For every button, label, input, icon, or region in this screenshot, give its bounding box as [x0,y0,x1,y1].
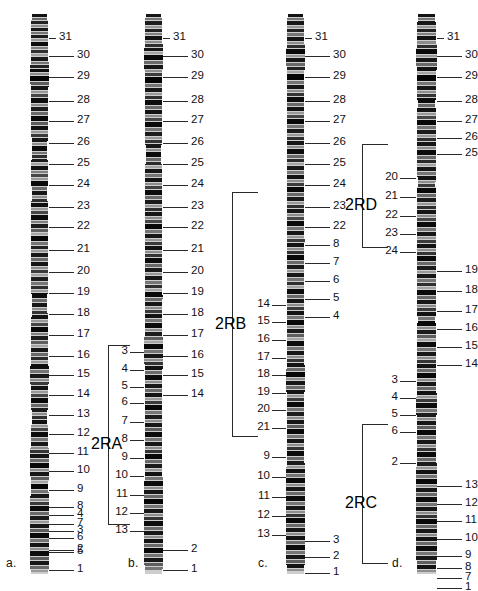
bracket-arm-top [362,424,388,425]
chromosome-band [144,337,163,340]
section-tick-line [437,365,462,366]
section-number-label: 5 [380,408,398,420]
section-tick-line [49,272,74,273]
chromosome-band [286,97,305,102]
chromosome-band [144,254,163,257]
section-tick-line [49,515,74,516]
chromosome-band [286,217,305,220]
section-tick-line [305,121,330,122]
chromosome-band [416,525,437,528]
section-number-label: 31 [173,31,186,43]
chromosome-band [286,466,305,468]
chromosome-band [416,63,437,66]
section-number-label: 14 [465,358,478,370]
chromosome-edge-mask [30,443,31,447]
chromosome-band [144,65,163,69]
bracket-arm-bottom [362,563,388,564]
chromosome-band [416,130,437,134]
chromosome-band [144,362,163,365]
chromosome-band [286,90,305,92]
section-number-label: 22 [333,220,346,232]
section-tick-line [437,138,462,139]
section-number-label: 3 [380,374,398,386]
chromosome-band [286,63,305,66]
chromosome-band [30,394,49,397]
chromosome-band [416,413,437,417]
chromosome-band [286,67,305,70]
chromosome-band [416,262,437,265]
chromosome-band [30,353,49,356]
section-tick-line [305,573,330,574]
panel-letter-a: a. [6,556,17,570]
chromosome-band [286,282,305,285]
chromosome-band [144,18,163,20]
chromosome-band [144,41,163,43]
chromosome-band [286,166,305,170]
inversion-label-2RB: 2RB [215,315,245,333]
chromosome-band [416,382,437,386]
chromosome-band [416,29,437,32]
chromosome-band [416,222,437,227]
section-number-label: 11 [465,514,477,526]
chromosome-band [144,29,163,32]
chromosome-band [30,47,49,49]
chromosome-band [416,373,437,378]
section-tick-line [163,143,188,144]
chromosome-band [144,323,163,328]
section-tick-line [437,539,462,540]
chromosome-edge-mask [48,361,49,365]
bracket-arm-top [108,345,130,346]
chromosome-band [144,73,163,76]
chromosome-band [416,287,437,289]
chromosome-band [416,312,437,316]
chromosome-band [30,472,49,476]
chromosome-band [30,481,49,483]
chromosome-band [286,356,305,358]
chromosome-band [144,558,163,562]
chromosome-band [416,493,437,496]
section-number-label: 17 [77,328,90,340]
section-number-label: 21 [191,243,204,255]
chromosome-band [30,62,49,64]
chromosome-band [144,354,163,358]
section-tick-line [49,101,74,102]
section-tick-line [49,415,74,416]
chromosome-band [416,138,437,141]
chromosome-band [286,205,305,208]
chromosome-bar-d [416,14,437,574]
chromosome-band [30,116,49,121]
chromosome-band [416,570,437,572]
chromosome-band [144,196,163,199]
chromosome-band [30,512,49,515]
chromosome-band [144,521,163,526]
chromosome-band [144,166,163,168]
section-number-label: 29 [77,70,90,82]
section-number-label: 28 [77,94,90,106]
section-number-label: 27 [191,114,204,126]
chromosome-band [286,107,305,111]
chromosome-edge-mask [416,569,417,574]
section-tick-line [130,440,144,441]
chromosome-band [30,361,49,363]
chromosome-band [144,393,163,397]
chromosome-band [144,329,163,331]
chromosome-band [30,557,49,560]
section-number-label: 12 [252,509,270,521]
chromosome-band [144,158,163,161]
section-number-label: 4 [333,310,339,322]
chromosome-band [144,292,163,297]
section-tick-line [163,121,188,122]
chromosome-band [30,50,49,53]
chromosome-band [30,548,49,550]
chromosome-band [30,386,49,390]
chromosome-band [144,149,163,151]
section-number-label: 14 [191,388,204,400]
chromosome-band [286,316,305,319]
section-tick-line [437,56,462,57]
chromosome-band [416,172,437,175]
section-tick-line [49,570,74,571]
section-tick-line [163,550,188,551]
section-number-label: 19 [191,286,204,298]
chromosome-band [416,72,437,74]
section-number-label: 9 [465,549,471,561]
